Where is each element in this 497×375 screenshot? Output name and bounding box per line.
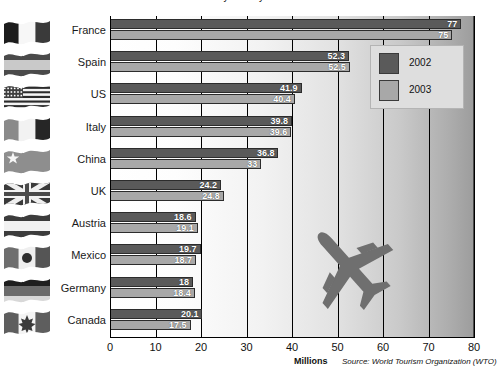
bar-germany-2002: 18	[111, 277, 193, 287]
country-label-us: US	[48, 88, 106, 100]
bar-value-label: 18.4	[173, 288, 191, 299]
x-tick-label-70: 70	[414, 341, 444, 353]
bar-value-label: 39.6	[270, 127, 288, 138]
bar-value-label: 18.6	[174, 212, 192, 223]
bar-value-label: 19.1	[176, 223, 194, 234]
country-label-france: France	[48, 24, 106, 36]
bar-value-label: 33	[247, 159, 257, 170]
country-label-china: China	[48, 153, 106, 165]
x-tick-label-20: 20	[186, 341, 216, 353]
x-axis-unit-label: Millions	[294, 356, 328, 366]
x-tick-label-40: 40	[277, 341, 307, 353]
bar-value-label: 19.7	[179, 244, 197, 255]
bar-uk-2003: 24.8	[111, 191, 224, 201]
x-tick-label-10: 10	[141, 341, 171, 353]
legend-label-2002: 2002	[409, 57, 431, 68]
bar-germany-2003: 18.4	[111, 288, 195, 298]
bar-canada-2003: 17.5	[111, 320, 191, 330]
bar-value-label: 24.8	[202, 191, 220, 202]
country-label-spain: Spain	[48, 56, 106, 68]
x-tick-label-30: 30	[232, 341, 262, 353]
country-label-germany: Germany	[48, 282, 106, 294]
bar-france-2003: 75	[111, 30, 452, 40]
bar-italy-2002: 39.8	[111, 116, 292, 126]
x-tick-label-60: 60	[368, 341, 398, 353]
bar-value-label: 18.7	[175, 255, 193, 266]
chart-legend: 2002 2003	[370, 45, 464, 109]
bar-value-label: 77	[447, 19, 457, 30]
bar-value-label: 41.9	[280, 83, 298, 94]
bar-spain-2003: 52.5	[111, 62, 350, 72]
bar-value-label: 52.5	[328, 62, 346, 73]
bar-austria-2003: 19.1	[111, 223, 198, 233]
bar-value-label: 17.5	[169, 320, 187, 331]
country-label-austria: Austria	[48, 217, 106, 229]
country-label-uk: UK	[48, 185, 106, 197]
bar-value-label: 39.8	[271, 116, 289, 127]
country-label-italy: Italy	[48, 121, 106, 133]
x-tick-label-80: 80	[459, 341, 489, 353]
bar-value-label: 36.8	[257, 148, 275, 159]
bar-uk-2002: 24.2	[111, 180, 221, 190]
bar-value-label: 40.4	[273, 94, 291, 105]
legend-swatch-2003-icon	[379, 80, 399, 101]
bar-value-label: 24.2	[200, 180, 218, 191]
legend-swatch-2002-icon	[379, 53, 399, 74]
x-tick-label-0: 0	[95, 341, 125, 353]
bar-china-2002: 36.8	[111, 148, 278, 158]
legend-label-2003: 2003	[409, 84, 431, 95]
bar-italy-2003: 39.6	[111, 127, 291, 137]
gridline-80	[474, 16, 475, 338]
bar-mexico-2002: 19.7	[111, 244, 201, 254]
bar-spain-2002: 52.3	[111, 51, 349, 61]
bar-canada-2002: 20.1	[111, 309, 202, 319]
x-axis-line	[110, 337, 475, 338]
legend-item-2002: 2002	[379, 53, 463, 75]
bar-mexico-2003: 18.7	[111, 255, 196, 265]
bar-us-2003: 40.4	[111, 94, 295, 104]
source-note: Source: World Tourism Organization (WTO)	[342, 357, 497, 366]
country-label-column: FranceSpainUSItalyChinaUKAustriaMexicoGe…	[58, 16, 110, 338]
chart-title: International tourist arrivals by countr…	[95, 0, 475, 2]
x-tick-label-50: 50	[323, 341, 353, 353]
country-label-mexico: Mexico	[48, 249, 106, 261]
bar-value-label: 75	[438, 30, 448, 41]
airplane-icon	[292, 212, 412, 322]
bar-us-2002: 41.9	[111, 83, 302, 93]
bar-china-2003: 33	[111, 159, 261, 169]
legend-item-2003: 2003	[379, 80, 463, 102]
bar-austria-2002: 18.6	[111, 212, 196, 222]
bar-value-label: 20.1	[181, 309, 199, 320]
bar-value-label: 52.3	[327, 51, 345, 62]
bar-value-label: 18	[179, 277, 189, 288]
bar-france-2002: 77	[111, 19, 461, 29]
country-label-canada: Canada	[48, 314, 106, 326]
